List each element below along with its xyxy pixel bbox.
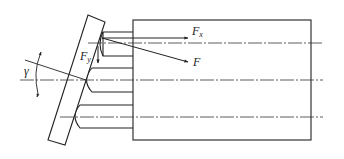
force-f-arrow xyxy=(102,38,188,62)
fx-label: Fx xyxy=(191,24,203,39)
gamma-label: γ xyxy=(24,64,29,78)
swash-plate-diagram: Fx F Fy γ xyxy=(0,0,344,159)
piston-top xyxy=(100,32,133,56)
f-label: F xyxy=(192,55,201,69)
gamma-angle-arc xyxy=(36,55,40,94)
piston-bottom xyxy=(75,105,133,128)
